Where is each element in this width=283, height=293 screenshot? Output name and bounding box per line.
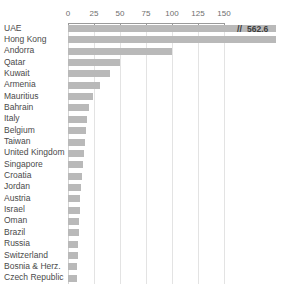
category-label: Croatia [4,171,61,180]
category-label: Austria [4,194,61,203]
category-label: Taiwan [4,137,61,146]
bar [68,263,77,270]
bar-chart: 0255075100125150 UAEHong KongAndorraQata… [0,0,283,293]
category-axis-labels: UAEHong KongAndorraQatarKuwaitArmeniaMau… [0,24,64,286]
bar [68,161,83,168]
category-label: Andorra [4,46,61,55]
category-label: Bosnia & Herz. [4,262,61,271]
bar [68,36,276,43]
category-label: Brazil [4,228,61,237]
tick-label: 25 [90,9,99,18]
category-label: Armenia [4,80,61,89]
tick-label: 100 [165,9,178,18]
bar [68,275,77,282]
bar [68,116,87,123]
bar [68,229,79,236]
category-label: Singapore [4,160,61,169]
category-label: Kuwait [4,69,61,78]
category-label: Israel [4,205,61,214]
category-label: Czech Republic [4,273,61,282]
tick-label: 150 [217,9,230,18]
bars-container [68,24,224,286]
bar [68,207,80,214]
category-label: Hong Kong [4,35,61,44]
bar [68,173,82,180]
tick-label: 0 [66,9,70,18]
bar [68,218,79,225]
category-label: Mauritius [4,92,61,101]
tick-label: 50 [116,9,125,18]
bar [68,184,81,191]
category-label: Switzerland [4,251,61,260]
bar [68,59,120,66]
bar [68,241,78,248]
bar [68,252,78,259]
bar [68,82,100,89]
category-label: Qatar [4,58,61,67]
bar [68,48,172,55]
bar [68,195,80,202]
bar [68,25,276,32]
bar [68,150,84,157]
tick-label: 125 [191,9,204,18]
bar [68,93,93,100]
bar [68,70,110,77]
top-cropped-fragment [0,0,283,5]
bar [68,104,89,111]
category-label: Jordan [4,182,61,191]
axis-break-marker: // [237,25,242,34]
gridline [224,24,225,284]
category-label: Russia [4,239,61,248]
category-label: United Kingdom [4,148,61,157]
category-label: Italy [4,114,61,123]
category-label: Oman [4,216,61,225]
bar [68,127,86,134]
category-label: Belgium [4,126,61,135]
category-label: UAE [4,24,61,33]
tick-label: 75 [142,9,151,18]
category-label: Bahrain [4,103,61,112]
bar [68,139,85,146]
bar-value-label: 562.6 [247,25,268,34]
